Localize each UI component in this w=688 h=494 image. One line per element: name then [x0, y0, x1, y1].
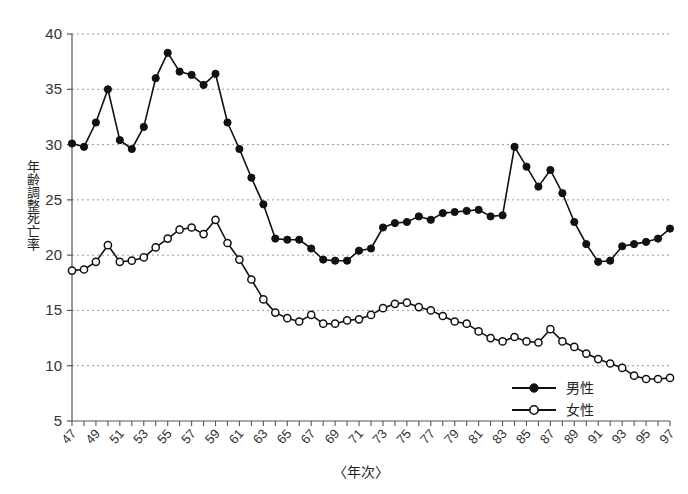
data-point-male — [224, 119, 231, 126]
data-point-female — [80, 266, 87, 273]
x-axis-tick-label: 51 — [106, 426, 127, 447]
data-point-male — [80, 143, 87, 150]
x-axis-tick-label: 95 — [632, 426, 653, 447]
data-point-male — [104, 86, 111, 93]
data-point-male — [643, 238, 650, 245]
data-point-male — [344, 257, 351, 264]
data-point-female — [164, 235, 171, 242]
data-point-female — [212, 216, 219, 223]
legend-marker-female — [530, 406, 538, 414]
data-point-male — [367, 245, 374, 252]
data-point-male — [487, 213, 494, 220]
legend-marker-male — [530, 384, 538, 392]
y-axis-tick-label: 15 — [45, 301, 62, 318]
data-point-male — [535, 183, 542, 190]
series-line-male — [72, 53, 670, 262]
x-axis-tick-label: 71 — [345, 426, 366, 447]
x-axis-tick-label: 75 — [393, 426, 414, 447]
data-point-male — [463, 207, 470, 214]
data-point-male — [188, 71, 195, 78]
data-point-female — [92, 258, 99, 265]
data-point-male — [654, 235, 661, 242]
data-point-male — [212, 70, 219, 77]
data-point-male — [272, 235, 279, 242]
x-axis-tick-label: 91 — [585, 426, 606, 447]
data-point-male — [439, 210, 446, 217]
data-point-female — [152, 244, 159, 251]
data-point-female — [643, 375, 650, 382]
y-axis-tick-label: 10 — [45, 357, 62, 374]
x-axis-tick-label: 85 — [513, 426, 534, 447]
x-axis-tick-label: 73 — [369, 426, 390, 447]
data-point-male — [619, 243, 626, 250]
data-point-female — [176, 226, 183, 233]
x-axis-tick-label: 49 — [82, 426, 103, 447]
data-point-female — [367, 311, 374, 318]
data-point-male — [236, 145, 243, 152]
y-axis-tick-label: 25 — [45, 191, 62, 208]
data-point-male — [631, 241, 638, 248]
data-point-female — [523, 338, 530, 345]
data-point-female — [607, 360, 614, 367]
y-axis-tick-label: 20 — [45, 246, 62, 263]
data-point-female — [68, 267, 75, 274]
data-point-male — [296, 236, 303, 243]
data-point-female — [631, 372, 638, 379]
data-point-male — [583, 241, 590, 248]
chart-figure: 年齢調整死亡率 51015202530354047495153555759616… — [0, 0, 688, 494]
x-axis-tick-label: 87 — [537, 426, 558, 447]
data-point-male — [284, 236, 291, 243]
data-point-female — [224, 239, 231, 246]
y-axis-tick-label: 30 — [45, 136, 62, 153]
x-axis-tick-label: 61 — [226, 426, 247, 447]
data-point-female — [272, 309, 279, 316]
data-point-male — [152, 75, 159, 82]
data-point-male — [547, 166, 554, 173]
x-axis-tick-label: 65 — [274, 426, 295, 447]
data-point-male — [164, 49, 171, 56]
y-axis-title: 年齢調整死亡率 — [18, 160, 40, 251]
data-point-female — [427, 307, 434, 314]
data-point-female — [200, 231, 207, 238]
x-axis-tick-label: 59 — [202, 426, 223, 447]
x-axis-tick-label: 63 — [250, 426, 271, 447]
data-point-female — [547, 326, 554, 333]
data-point-male — [666, 225, 673, 232]
data-point-male — [391, 220, 398, 227]
data-point-female — [320, 320, 327, 327]
chart-canvas: 5101520253035404749515355575961636567697… — [0, 0, 688, 494]
data-point-female — [415, 304, 422, 311]
data-point-male — [332, 257, 339, 264]
x-axis-tick-label: 77 — [417, 426, 438, 447]
data-point-female — [284, 315, 291, 322]
x-axis-tick-label: 93 — [609, 426, 630, 447]
data-point-male — [128, 145, 135, 152]
data-point-male — [607, 257, 614, 264]
data-point-female — [439, 312, 446, 319]
data-point-male — [451, 208, 458, 215]
data-point-female — [260, 296, 267, 303]
legend-label-male: 男性 — [566, 380, 594, 396]
data-point-female — [296, 318, 303, 325]
data-point-female — [451, 318, 458, 325]
data-point-female — [116, 258, 123, 265]
x-axis-tick-label: 57 — [178, 426, 199, 447]
data-point-female — [140, 254, 147, 261]
data-point-male — [176, 68, 183, 75]
data-point-male — [355, 247, 362, 254]
data-point-female — [236, 256, 243, 263]
data-point-male — [475, 206, 482, 213]
x-axis-tick-label: 67 — [298, 426, 319, 447]
x-axis-tick-label: 97 — [656, 426, 677, 447]
y-axis-tick-label: 40 — [45, 25, 62, 42]
data-point-male — [571, 218, 578, 225]
data-point-female — [379, 305, 386, 312]
data-point-male — [403, 218, 410, 225]
series-line-female — [72, 220, 670, 379]
data-point-female — [595, 356, 602, 363]
x-axis-tick-label: 81 — [465, 426, 486, 447]
data-point-male — [415, 213, 422, 220]
data-point-male — [595, 258, 602, 265]
data-point-male — [523, 163, 530, 170]
data-point-female — [666, 374, 673, 381]
